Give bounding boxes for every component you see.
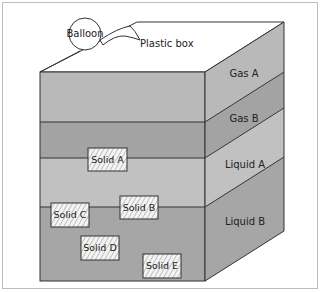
layered-box-diagram: Gas A Gas B Liquid A Liquid B Balloon Pl…: [0, 0, 320, 292]
solid-e: Solid E: [143, 254, 181, 278]
svg-text:Solid B: Solid B: [123, 202, 156, 213]
solid-d: Solid D: [81, 236, 119, 260]
label-balloon: Balloon: [66, 28, 103, 39]
solid-c: Solid C: [51, 203, 89, 227]
label-gas-b: Gas B: [229, 113, 258, 124]
solid-b: Solid B: [120, 196, 158, 219]
front-layer-gas-a: [40, 72, 205, 122]
svg-text:Solid C: Solid C: [54, 209, 87, 220]
label-gas-a: Gas A: [229, 68, 258, 79]
label-liquid-b: Liquid B: [225, 216, 265, 227]
svg-text:Solid E: Solid E: [146, 260, 178, 271]
solid-a: Solid A: [88, 148, 127, 171]
label-plastic-box: Plastic box: [140, 38, 194, 49]
svg-text:Solid A: Solid A: [91, 154, 124, 165]
svg-text:Solid D: Solid D: [83, 242, 117, 253]
label-liquid-a: Liquid A: [225, 159, 265, 170]
